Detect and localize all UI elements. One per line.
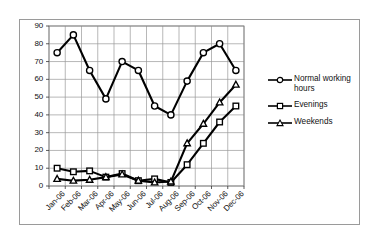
data-point[interactable] <box>54 165 60 171</box>
data-point[interactable] <box>233 81 239 87</box>
legend-label-evenings: Evenings <box>294 100 356 110</box>
y-axis-label: 90 <box>23 22 43 30</box>
legend-label-weekends: Weekends <box>294 117 356 127</box>
y-axis-label: 10 <box>23 164 43 172</box>
data-point[interactable] <box>184 162 190 168</box>
legend-item-weekends[interactable]: Weekends <box>268 117 356 127</box>
legend-item-evenings[interactable]: Evenings <box>268 100 356 110</box>
data-point[interactable] <box>70 177 76 183</box>
data-point[interactable] <box>54 175 60 181</box>
y-axis-label: 40 <box>23 111 43 119</box>
data-point[interactable] <box>152 103 158 109</box>
chart-legend: Normal working hours Evenings Weekends <box>268 74 356 134</box>
y-axis-label: 30 <box>23 129 43 137</box>
legend-square-marker-icon <box>268 102 292 110</box>
y-axis-label: 50 <box>23 93 43 101</box>
legend-label-normal-working-hours: Normal working hours <box>294 74 356 93</box>
y-axis-label: 60 <box>23 75 43 83</box>
data-point[interactable] <box>87 67 93 73</box>
y-axis-label: 70 <box>23 58 43 66</box>
data-point[interactable] <box>103 96 109 102</box>
data-point[interactable] <box>54 50 60 56</box>
data-point[interactable] <box>217 41 223 47</box>
data-point[interactable] <box>87 168 93 174</box>
data-point[interactable] <box>184 78 190 84</box>
legend-item-normal-working-hours[interactable]: Normal working hours <box>268 74 356 93</box>
data-point[interactable] <box>135 67 141 73</box>
legend-circle-marker-icon <box>268 76 292 84</box>
legend-triangle-marker-icon <box>268 119 292 127</box>
y-axis-label: 0 <box>23 182 43 190</box>
data-point[interactable] <box>70 32 76 38</box>
data-point[interactable] <box>201 141 207 147</box>
data-point[interactable] <box>119 58 125 64</box>
data-point[interactable] <box>86 176 92 182</box>
data-point[interactable] <box>200 50 206 56</box>
y-axis-label: 80 <box>23 40 43 48</box>
data-point[interactable] <box>217 119 223 125</box>
data-point[interactable] <box>71 169 77 175</box>
data-point[interactable] <box>168 112 174 118</box>
y-axis-label: 20 <box>23 146 43 154</box>
data-point[interactable] <box>233 67 239 73</box>
data-point[interactable] <box>233 103 239 109</box>
